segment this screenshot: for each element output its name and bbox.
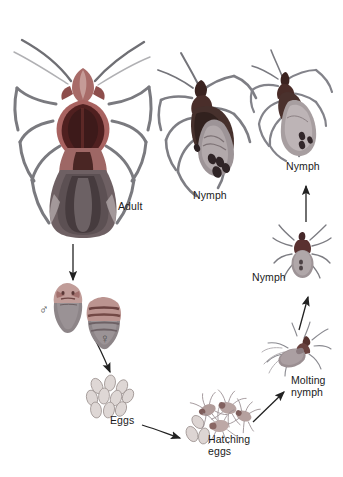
- label-adult: Adult: [118, 200, 142, 212]
- molting-nymph-body: [276, 336, 310, 371]
- nymph-large-body: [191, 80, 234, 179]
- arrow-eggs-to-hatching-eggs: [142, 425, 180, 438]
- label-hatching-eggs: Hatching eggs: [208, 433, 250, 457]
- nymph-large-antennae: [158, 53, 198, 88]
- label-molting-nymph: Molting nymph: [291, 374, 326, 398]
- label-eggs: Eggs: [110, 414, 134, 426]
- life-cycle-figure: Adult Nymph Nymph Nymph Molting nymph Eg…: [0, 0, 343, 477]
- nymph-small-antennae: [252, 50, 282, 79]
- label-nymph-top: Nymph: [252, 271, 286, 283]
- male-symbol: ♂: [39, 303, 49, 316]
- adult-body: [49, 68, 116, 238]
- organism-nymph-small: [240, 48, 343, 163]
- hatching-egg-shells: [184, 413, 211, 445]
- nymph-small-body: [277, 72, 316, 156]
- female-symbol: ♀: [100, 332, 110, 345]
- nymph-top-body: [292, 232, 314, 278]
- egg-group: [85, 374, 136, 419]
- label-nymph-small: Nymph: [286, 160, 320, 172]
- label-nymph-large: Nymph: [193, 189, 227, 201]
